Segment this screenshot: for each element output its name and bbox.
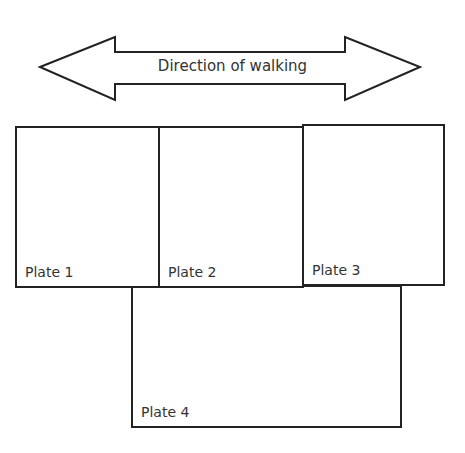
plate-4: Plate 4	[131, 285, 402, 428]
plate-2-label: Plate 2	[168, 264, 216, 280]
plate-1-label: Plate 1	[25, 264, 73, 280]
arrow-label: Direction of walking	[0, 57, 465, 75]
plate-2: Plate 2	[158, 126, 304, 288]
plate-3: Plate 3	[302, 124, 445, 286]
plate-1: Plate 1	[15, 126, 160, 288]
plate-3-label: Plate 3	[312, 262, 360, 278]
plate-4-label: Plate 4	[141, 404, 189, 420]
